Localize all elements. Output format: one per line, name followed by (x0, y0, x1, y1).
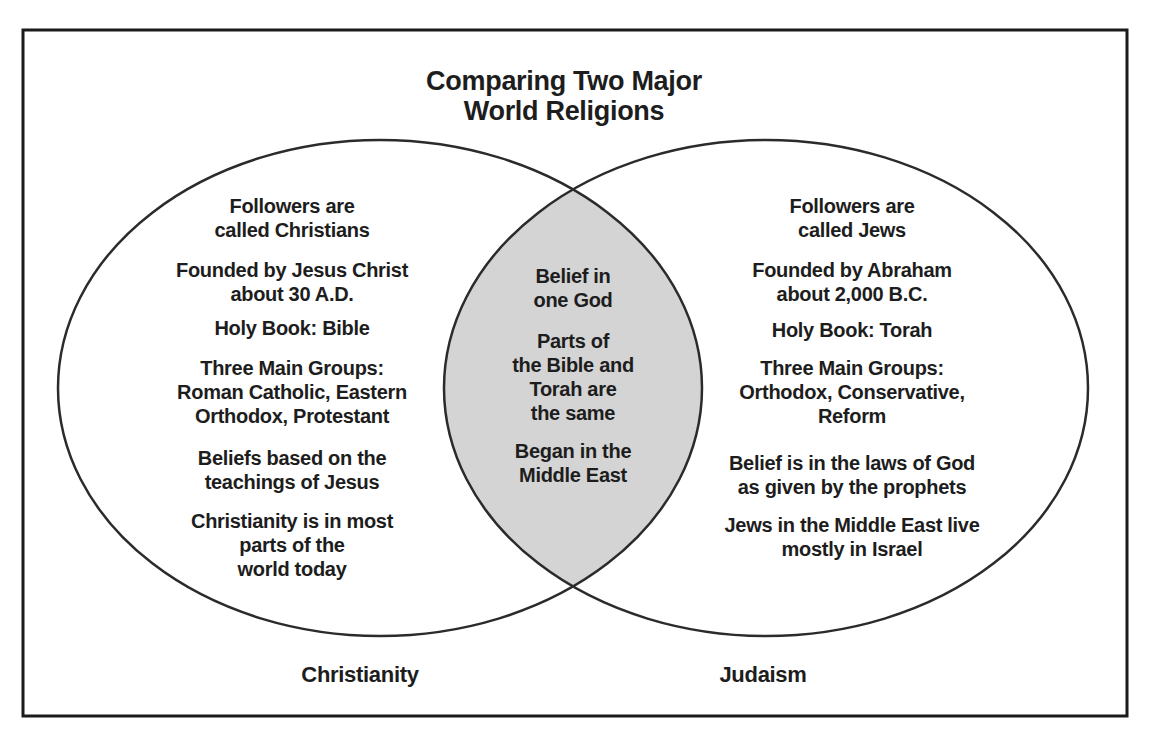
judaism-fact-israel: Jews in the Middle East live mostly in I… (724, 513, 979, 561)
shared-fact-one-god: Belief in one God (533, 264, 612, 312)
shared-fact-middle-east: Began in the Middle East (515, 439, 631, 487)
christianity-fact-holy-book: Holy Book: Bible (214, 316, 369, 340)
christianity-fact-groups: Three Main Groups: Roman Catholic, Easte… (177, 356, 407, 428)
judaism-fact-groups: Three Main Groups: Orthodox, Conservativ… (739, 356, 964, 428)
diagram-title: Comparing Two Major World Religions (426, 66, 702, 126)
christianity-fact-founded: Founded by Jesus Christ about 30 A.D. (176, 258, 408, 306)
christianity-label: Christianity (301, 662, 418, 688)
judaism-fact-laws: Belief is in the laws of God as given by… (729, 451, 975, 499)
judaism-fact-followers: Followers are called Jews (789, 194, 914, 242)
shared-fact-bible-torah: Parts of the Bible and Torah are the sam… (512, 329, 634, 425)
christianity-fact-beliefs: Beliefs based on the teachings of Jesus (198, 446, 387, 494)
judaism-fact-holy-book: Holy Book: Torah (772, 318, 932, 342)
christianity-fact-followers: Followers are called Christians (215, 194, 370, 242)
judaism-label: Judaism (719, 662, 806, 688)
judaism-fact-founded: Founded by Abraham about 2,000 B.C. (752, 258, 951, 306)
christianity-fact-spread: Christianity is in most parts of the wor… (191, 509, 393, 581)
venn-diagram-page: Comparing Two Major World Religions Foll… (0, 0, 1149, 738)
